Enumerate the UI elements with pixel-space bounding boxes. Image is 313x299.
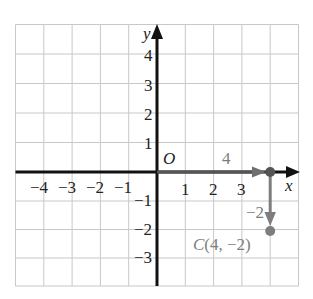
x-tick-label: 2	[209, 180, 218, 199]
start-point	[265, 167, 275, 177]
x-axis-label: x	[284, 176, 293, 195]
point-c	[265, 226, 275, 236]
origin-label: O	[163, 149, 175, 168]
x-tick-label: −4	[30, 178, 49, 197]
y-tick-label: 2	[144, 105, 153, 124]
y-tick-label: 1	[144, 134, 153, 153]
move-right-label: 4	[222, 149, 231, 168]
y-tick-labels: 4 3 2 1 −1 −2 −3	[134, 46, 153, 267]
point-c-coords: (4, −2)	[204, 235, 250, 254]
y-tick-label: 4	[144, 46, 153, 65]
y-tick-label: 3	[144, 76, 153, 95]
x-tick-label: −3	[58, 178, 76, 197]
point-c-label: C(4, −2)	[193, 235, 251, 254]
axes	[16, 24, 301, 286]
move-down-label: −2	[246, 203, 264, 222]
x-tick-label: −1	[114, 178, 132, 197]
vertical-move-arrowhead-icon	[265, 212, 276, 226]
y-tick-label: −1	[134, 191, 152, 210]
horizontal-move-arrowhead-icon	[252, 167, 266, 178]
x-tick-label: 3	[237, 180, 246, 199]
x-tick-label: −2	[86, 178, 104, 197]
y-tick-label: −2	[134, 220, 152, 239]
y-axis-label: y	[141, 24, 151, 43]
y-axis-arrowhead-icon	[151, 24, 163, 39]
y-tick-label: −3	[134, 248, 152, 267]
point-c-name: C	[193, 235, 205, 254]
x-tick-label: 1	[181, 180, 190, 199]
coordinate-plane: y x O −4 −3 −2 −1 1 2 3 4 3 2 1 −1 −2 −3…	[0, 0, 313, 299]
